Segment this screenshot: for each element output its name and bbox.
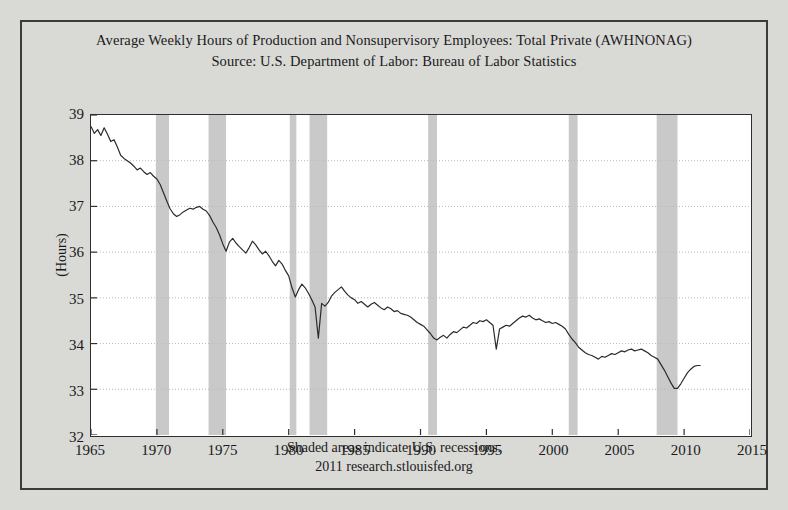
recession-band [657,115,678,435]
chart-figure: Average Weekly Hours of Production and N… [0,0,788,510]
recession-band [428,115,437,435]
y-tick-label: 35 [50,290,84,307]
recession-band [310,115,328,435]
y-tick-label: 39 [50,106,84,123]
recession-band [290,115,297,435]
y-tick-label: 34 [50,336,84,353]
plot-area [90,114,752,437]
data-series-line [91,126,701,388]
recession-band [156,115,169,435]
chart-frame: Average Weekly Hours of Production and N… [20,20,768,490]
series-chart-svg [91,115,750,435]
recession-note: Shaded areas indicate U.S. recessions. [22,438,766,457]
y-tick-label: 33 [50,382,84,399]
recession-shading-group [156,115,678,435]
chart-title-block: Average Weekly Hours of Production and N… [22,30,766,72]
recession-band [569,115,578,435]
chart-title-line-2: Source: U.S. Department of Labor: Bureau… [22,51,766,72]
axis-ticks-group [91,115,750,435]
y-tick-label: 37 [50,198,84,215]
chart-title-line-1: Average Weekly Hours of Production and N… [22,30,766,51]
source-attribution: 2011 research.stlouisfed.org [22,457,766,476]
chart-footer-block: Shaded areas indicate U.S. recessions. 2… [22,438,766,476]
plot-canvas [90,114,752,437]
y-tick-label: 38 [50,152,84,169]
data-line-group [91,126,701,388]
y-tick-label: 36 [50,244,84,261]
y-axis-tick-labels: 3233343536373839 [48,114,84,437]
recession-band [209,115,227,435]
